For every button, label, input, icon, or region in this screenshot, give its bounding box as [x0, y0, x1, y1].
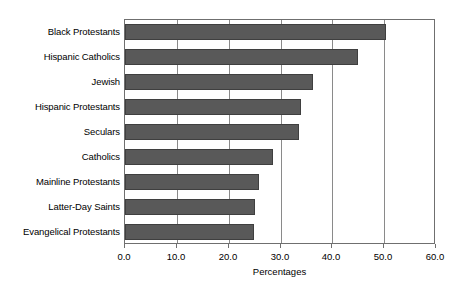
bar [125, 149, 273, 165]
bar-band [125, 220, 434, 245]
category-label: Hispanic Catholics [0, 44, 120, 69]
bar [125, 174, 259, 190]
bar [125, 124, 299, 140]
bar-series [125, 20, 434, 243]
tick-mark [383, 244, 384, 248]
bar [125, 49, 358, 65]
tick-mark [435, 244, 436, 248]
category-label: Seculars [0, 119, 120, 144]
bar-band [125, 145, 434, 170]
category-label: Evangelical Protestants [0, 219, 120, 244]
bar-band [125, 120, 434, 145]
x-tick-label: 10.0 [156, 250, 196, 264]
bar [125, 99, 301, 115]
bar-chart: Black Protestants Hispanic Catholics Jew… [0, 0, 457, 295]
tick-mark [280, 244, 281, 248]
tick-mark [124, 244, 125, 248]
category-label: Catholics [0, 144, 120, 169]
bar-band [125, 45, 434, 70]
bar [125, 24, 386, 40]
bar-band [125, 195, 434, 220]
category-label: Mainline Protestants [0, 169, 120, 194]
category-label: Hispanic Protestants [0, 94, 120, 119]
bar-band [125, 20, 434, 45]
bar [125, 224, 254, 240]
bar-band [125, 70, 434, 95]
category-label: Latter-Day Saints [0, 194, 120, 219]
x-axis-tick-marks [124, 244, 435, 248]
category-axis-labels: Black Protestants Hispanic Catholics Jew… [0, 19, 120, 244]
bar-band [125, 95, 434, 120]
x-tick-label: 40.0 [311, 250, 351, 264]
tick-mark [176, 244, 177, 248]
bar [125, 199, 255, 215]
x-axis-tick-labels: 0.010.020.030.040.050.060.0 [0, 250, 457, 264]
x-tick-label: 50.0 [363, 250, 403, 264]
x-tick-label: 0.0 [104, 250, 144, 264]
x-tick-label: 20.0 [208, 250, 248, 264]
tick-mark [331, 244, 332, 248]
bar [125, 74, 313, 90]
category-label: Black Protestants [0, 19, 120, 44]
tick-mark [228, 244, 229, 248]
plot-area [124, 19, 435, 244]
x-tick-label: 60.0 [415, 250, 455, 264]
category-label: Jewish [0, 69, 120, 94]
x-tick-label: 30.0 [260, 250, 300, 264]
bar-band [125, 170, 434, 195]
x-axis-title: Percentages [124, 266, 435, 277]
